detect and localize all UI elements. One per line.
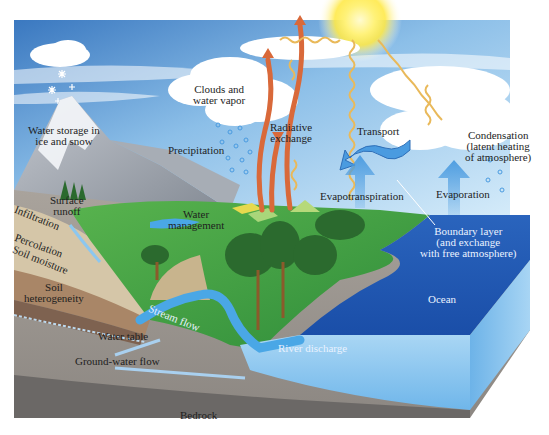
label-transport: Transport: [357, 126, 399, 137]
label-river-discharge: River discharge: [278, 343, 347, 354]
label-radiative-exchange: Radiative exchange: [270, 122, 312, 144]
label-bedrock: Bedrock: [180, 410, 217, 421]
label-water-storage: Water storage in ice and snow: [28, 125, 100, 147]
label-water-management: Water management: [168, 209, 224, 231]
label-clouds: Clouds and water vapor: [193, 84, 245, 106]
label-ground-water-flow: Ground-water flow: [75, 356, 160, 367]
label-soil-heterogeneity: Soil heterogeneity: [24, 282, 84, 304]
label-surface-runoff: Surface runoff: [50, 195, 84, 217]
label-evapotranspiration: Evapotranspiration: [320, 191, 404, 202]
label-boundary-layer: Boundary layer (and exchange with free a…: [420, 226, 517, 259]
label-precipitation: Precipitation: [168, 145, 224, 156]
label-condensation: Condensation (latent heating of atmosphe…: [465, 130, 531, 163]
label-ocean: Ocean: [428, 294, 456, 305]
water-cycle-diagram: [0, 0, 549, 435]
label-evaporation: Evaporation: [436, 189, 490, 200]
label-water-table: Water table: [98, 331, 148, 342]
